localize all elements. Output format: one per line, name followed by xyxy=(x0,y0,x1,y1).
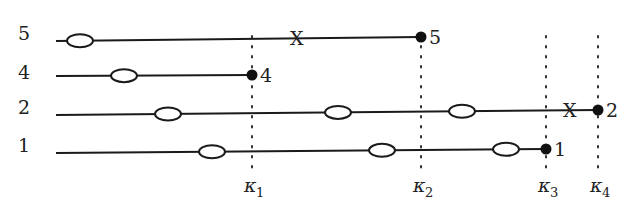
ellipse-marker xyxy=(67,34,93,47)
kappa-subscript: 1 xyxy=(256,185,264,200)
end-dot xyxy=(247,70,258,81)
row-label: 5 xyxy=(18,22,30,44)
timeline-diagram: κ1κ2κ3κ45X5442X211 xyxy=(0,0,643,212)
kappa-subscript: 2 xyxy=(425,185,433,200)
row-label: 2 xyxy=(18,96,30,118)
ellipse-marker xyxy=(199,145,225,158)
kappa-label: κ xyxy=(537,174,551,196)
cross-marker: X xyxy=(563,99,577,121)
end-label: 1 xyxy=(554,138,566,160)
end-label: 5 xyxy=(429,26,441,48)
kappa-label: κ xyxy=(412,174,426,196)
kappa-label: κ xyxy=(589,174,603,196)
ellipse-marker xyxy=(369,144,395,157)
kappa-label: κ xyxy=(243,174,257,196)
timeline-line xyxy=(56,149,546,153)
end-label: 4 xyxy=(260,64,272,86)
timeline-line xyxy=(56,75,252,76)
end-dot xyxy=(593,105,604,116)
row-label: 4 xyxy=(18,61,30,83)
ellipse-marker xyxy=(493,143,519,156)
kappa-subscript: 3 xyxy=(550,185,558,200)
diagram-canvas: κ1κ2κ3κ45X5442X211 xyxy=(0,0,643,212)
timeline-line xyxy=(56,37,421,41)
ellipse-marker xyxy=(155,107,181,120)
end-label: 2 xyxy=(606,99,618,121)
end-dot xyxy=(416,32,427,43)
row-label: 1 xyxy=(18,134,30,156)
cross-marker: X xyxy=(290,27,304,49)
ellipse-marker xyxy=(325,106,351,119)
ellipse-marker xyxy=(449,105,475,118)
end-dot xyxy=(541,144,552,155)
kappa-subscript: 4 xyxy=(602,185,610,200)
ellipse-marker xyxy=(111,69,137,82)
